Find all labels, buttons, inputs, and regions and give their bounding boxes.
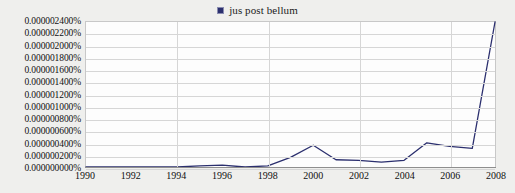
gridline-horizontal <box>86 120 495 121</box>
y-axis-tick-label: 0.000001200% <box>24 90 81 100</box>
x-axis-tick-label: 2006 <box>440 170 460 181</box>
gridline-horizontal <box>86 132 495 133</box>
gridline-horizontal <box>86 96 495 97</box>
x-axis-tick-label: 1990 <box>75 170 95 181</box>
y-axis-tick-label: 0.000001800% <box>24 53 81 63</box>
ngram-line-chart: jus post bellum 0.000002400%0.000002200%… <box>0 0 515 193</box>
gridline-horizontal <box>86 157 495 158</box>
x-axis-baseline <box>85 167 496 168</box>
x-axis-tick-label: 2002 <box>349 170 369 181</box>
gridline-vertical <box>360 22 361 167</box>
x-axis-tick-label: 1992 <box>121 170 141 181</box>
x-axis-labels: 1990199219941996199820002002200420062008 <box>85 170 496 186</box>
legend-entry-label: jus post bellum <box>229 5 298 16</box>
legend-square-marker-icon <box>217 7 224 14</box>
gridline-horizontal <box>86 83 495 84</box>
plot-area <box>85 21 496 168</box>
y-axis-tick-label: 0.000001400% <box>24 77 81 87</box>
x-axis-tick-label: 2000 <box>303 170 323 181</box>
x-axis-tick-label: 2008 <box>486 170 506 181</box>
y-axis-tick-label: 0.000002400% <box>24 16 81 26</box>
y-axis-tick-label: 0.000000800% <box>24 114 81 124</box>
gridline-horizontal <box>86 108 495 109</box>
y-axis-tick-label: 0.000000400% <box>24 139 81 149</box>
x-axis-tick-label: 1994 <box>166 170 186 181</box>
gridline-horizontal <box>86 34 495 35</box>
y-axis-tick-label: 0.000000000% <box>24 163 81 173</box>
x-axis-tick-label: 2004 <box>395 170 415 181</box>
gridline-horizontal <box>86 145 495 146</box>
y-axis-tick-label: 0.000002000% <box>24 41 81 51</box>
y-axis-tick-label: 0.000000200% <box>24 151 81 161</box>
x-axis-tick-label: 1996 <box>212 170 232 181</box>
gridline-vertical <box>177 22 178 167</box>
y-axis-tick-label: 0.000002200% <box>24 28 81 38</box>
x-axis-tick-label: 1998 <box>258 170 278 181</box>
y-axis-tick-label: 0.000001600% <box>24 65 81 75</box>
chart-legend: jus post bellum <box>0 3 515 17</box>
y-axis-tick-label: 0.000001000% <box>24 102 81 112</box>
gridline-horizontal <box>86 59 495 60</box>
gridline-horizontal <box>86 47 495 48</box>
gridline-horizontal <box>86 71 495 72</box>
y-axis-labels: 0.000002400%0.000002200%0.000002000%0.00… <box>0 21 81 168</box>
gridline-vertical <box>451 22 452 167</box>
y-axis-tick-label: 0.000000600% <box>24 126 81 136</box>
gridline-vertical <box>269 22 270 167</box>
